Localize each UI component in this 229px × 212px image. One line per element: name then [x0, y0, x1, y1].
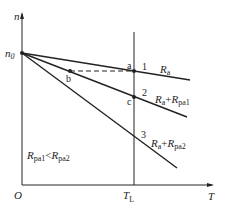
x-axis-arrow-icon	[207, 183, 214, 187]
point-c	[132, 95, 136, 99]
point-a-label: a	[127, 60, 132, 71]
point-a	[132, 69, 136, 73]
line-3-number: 3	[141, 129, 146, 140]
tl-label: TL	[123, 189, 134, 204]
line-2-number: 2	[142, 87, 147, 98]
point-b-label: b	[66, 73, 71, 84]
line-3-label: Ra+Rpa2	[150, 137, 186, 151]
y-axis-label: n	[14, 10, 20, 22]
x-axis-label: T	[208, 190, 215, 202]
point-c-label: c	[127, 96, 132, 107]
point-n0	[20, 51, 24, 55]
speed-torque-diagram: n T O n0 TL a b c 1 2 3 Ra Ra+Rpa1 Ra+Rp…	[0, 0, 229, 212]
origin-label: O	[14, 189, 22, 201]
line-2-label: Ra+Rpa1	[154, 93, 190, 107]
n0-label: n0	[5, 47, 15, 61]
line-1-number: 1	[142, 61, 147, 72]
y-axis-arrow-icon	[20, 12, 24, 19]
condition-label: Rpa1<Rpa2	[26, 149, 70, 163]
line-1-label: Ra	[159, 63, 171, 77]
